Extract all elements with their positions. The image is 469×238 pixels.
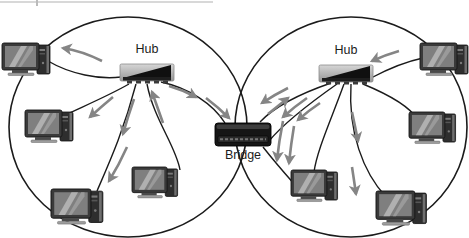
flow-arrow xyxy=(277,121,283,160)
flow-arrow xyxy=(90,97,113,117)
flow-arrow xyxy=(63,48,102,61)
flow-arrow xyxy=(372,51,399,61)
cable xyxy=(97,84,136,191)
flow-arrow xyxy=(123,99,134,134)
computer-icon xyxy=(2,43,50,76)
bridge-icon xyxy=(215,123,271,146)
computer-icon xyxy=(132,167,178,198)
cable xyxy=(351,84,386,197)
flow-arrow xyxy=(268,98,288,114)
hub-icon xyxy=(120,64,174,84)
bridge-label: Bridge xyxy=(225,148,261,162)
cable xyxy=(48,61,121,78)
right-hub-label: Hub xyxy=(335,43,358,57)
cropped-text-remnant xyxy=(0,0,213,6)
flow-arrow xyxy=(206,98,229,118)
cable xyxy=(371,58,423,78)
computer-icon xyxy=(376,191,426,225)
flow-arrow xyxy=(352,167,356,194)
cable xyxy=(147,84,180,170)
flow-arrow xyxy=(169,86,196,97)
left-hub-label: Hub xyxy=(136,42,159,56)
cable xyxy=(161,82,225,123)
computer-icon xyxy=(25,110,73,143)
computer-icon xyxy=(420,43,468,76)
computer-icon xyxy=(291,170,338,202)
network-diagram: Hub Hub Bridge xyxy=(0,0,469,238)
flow-arrow xyxy=(289,126,294,163)
computer-icon xyxy=(51,189,103,224)
hub-icon xyxy=(319,65,373,85)
flow-arrow xyxy=(109,147,127,181)
computer-icon xyxy=(409,112,456,144)
diagram-canvas: Hub Hub Bridge xyxy=(0,0,469,238)
